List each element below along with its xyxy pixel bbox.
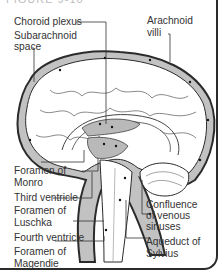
- label-confluence-3: sinuses: [146, 221, 181, 233]
- label-third-ventricle: Third ventricle: [14, 192, 78, 204]
- label-foramen-magendie-2: Magendie: [14, 258, 59, 270]
- cerebellum: [140, 163, 189, 196]
- label-foramen-luschka-2: Luschka: [14, 217, 52, 229]
- label-subarachnoid-space-2: space: [14, 41, 41, 53]
- label-aqueduct-sylvius-2: Sylvius: [146, 248, 178, 260]
- brainstem: [100, 160, 132, 262]
- label-foramen-monro-2: Monro: [14, 177, 43, 189]
- label-foramen-monro-1: Foramen of: [14, 165, 66, 177]
- label-arachnoid-villi-1: Arachnoid: [147, 15, 193, 27]
- label-choroid-plexus: Choroid plexus: [14, 16, 82, 28]
- label-subarachnoid-space-1: Subarachnoid: [14, 30, 77, 42]
- label-foramen-luschka-1: Foramen of: [14, 205, 66, 217]
- label-confluence-2: of venous: [146, 210, 190, 222]
- label-confluence-1: Confluence: [146, 199, 198, 211]
- label-fourth-ventricle: Fourth ventricle: [14, 232, 84, 244]
- label-foramen-magendie-1: Foramen of: [14, 246, 66, 258]
- label-aqueduct-sylvius-1: Aqueduct of: [146, 236, 200, 248]
- label-arachnoid-villi-2: villi: [147, 27, 161, 39]
